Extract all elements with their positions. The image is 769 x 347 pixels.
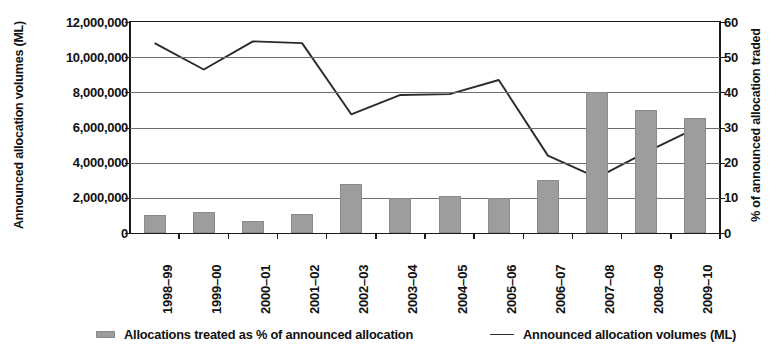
- y-axis-right-tick-label: 10: [724, 191, 764, 204]
- x-axis-tick-label-1998-99: 1998–99: [160, 265, 175, 314]
- y-axis-right-tick-label: 50: [724, 51, 764, 64]
- x-axis-tick-label-1999-00: 1999–00: [209, 265, 224, 314]
- plot-area: [130, 22, 720, 233]
- bar-1999-00: [193, 212, 215, 233]
- y-axis-left-tick-label: 8,000,000: [22, 86, 128, 99]
- y-axis-right-tickmark: [720, 92, 725, 93]
- gridline: [130, 128, 720, 129]
- bar-2008-09: [635, 110, 657, 233]
- y-axis-left-tickmark: [125, 163, 130, 164]
- x-axis-tick-label-2005-06: 2005–06: [504, 265, 519, 314]
- x-axis-tickmark: [277, 234, 279, 239]
- y-axis-left-tickmark: [125, 128, 130, 129]
- gridline: [130, 57, 720, 58]
- bar-2004-05: [439, 196, 461, 233]
- x-axis-tickmark: [523, 234, 525, 239]
- y-axis-right-tickmark: [720, 57, 725, 58]
- x-axis-tick-label-2007-08: 2007–08: [602, 265, 617, 314]
- x-axis-tickmark: [375, 234, 377, 239]
- x-axis-tick-label-2002-03: 2002–03: [356, 265, 371, 314]
- legend-bar-swatch-icon: [96, 331, 115, 338]
- y-axis-left-tick-label: 2,000,000: [22, 191, 128, 204]
- legend-line-swatch-icon: [490, 334, 514, 335]
- y-axis-left-tickmark: [125, 92, 130, 93]
- legend-bar-label: Allocations treated as % of announced al…: [124, 327, 413, 342]
- x-axis-ticks: 1998–991999–002000–012001–022002–032003–…: [130, 234, 720, 320]
- y-axis-right-tickmark: [720, 163, 725, 164]
- y-axis-right-tick-label: 40: [724, 86, 764, 99]
- x-axis-tickmark: [228, 234, 230, 239]
- y-axis-left-tick-label: 6,000,000: [22, 121, 128, 134]
- bar-2001-02: [291, 214, 313, 233]
- y-axis-left-tick-label: 10,000,000: [22, 51, 128, 64]
- bar-2003-04: [389, 198, 411, 233]
- chart-legend: Allocations treated as % of announced al…: [0, 322, 769, 347]
- x-axis-tickmark: [572, 234, 574, 239]
- x-axis-tickmark: [719, 234, 721, 239]
- x-axis-tickmark: [424, 234, 426, 239]
- x-axis-tickmark: [326, 234, 328, 239]
- x-axis-tickmark: [621, 234, 623, 239]
- y-axis-right-tickmark: [720, 22, 725, 23]
- y-axis-right-ticks: 0102030405060: [724, 0, 764, 347]
- y-axis-left-tick-label: 4,000,000: [22, 156, 128, 169]
- y-axis-right-tick-label: 30: [724, 121, 764, 134]
- y-axis-right-tick-label: 0: [724, 227, 764, 240]
- y-axis-left-tickmark: [125, 22, 130, 23]
- y-axis-right-tick-label: 20: [724, 156, 764, 169]
- x-axis-tick-label-2008-09: 2008–09: [651, 265, 666, 314]
- line-series-announced-allocation-volumes: [155, 41, 696, 177]
- gridline: [130, 92, 720, 93]
- x-axis-tickmark: [178, 234, 180, 239]
- bar-1998-99: [144, 215, 166, 233]
- legend-item-line: Announced allocation volumes (ML): [490, 322, 736, 347]
- y-axis-right-tickmark: [720, 198, 725, 199]
- legend-item-bars: Allocations treated as % of announced al…: [96, 322, 413, 347]
- gridline: [130, 163, 720, 164]
- bar-2009-10: [684, 118, 706, 233]
- x-axis-tick-label-2000-01: 2000–01: [258, 265, 273, 314]
- y-axis-left-tick-label: 12,000,000: [22, 16, 128, 29]
- y-axis-left-tick-label: 0: [22, 227, 128, 240]
- bar-2000-01: [242, 221, 264, 233]
- bar-2002-03: [340, 184, 362, 233]
- x-axis-tick-label-2009-10: 2009–10: [700, 265, 715, 314]
- x-axis-tickmark: [670, 234, 672, 239]
- y-axis-right-tickmark: [720, 128, 725, 129]
- x-axis-tick-label-2004-05: 2004–05: [455, 265, 470, 314]
- y-axis-right-tick-label: 60: [724, 16, 764, 29]
- x-axis-tick-label-2001-02: 2001–02: [307, 265, 322, 314]
- bar-2005-06: [488, 198, 510, 233]
- x-axis-tick-label-2006-07: 2006–07: [553, 265, 568, 314]
- y-axis-left-tickmark: [125, 57, 130, 58]
- x-axis-tickmark: [473, 234, 475, 239]
- bar-2006-07: [537, 180, 559, 233]
- x-axis-tick-label-2003-04: 2003–04: [405, 265, 420, 314]
- bar-2007-08: [586, 92, 608, 233]
- legend-line-label: Announced allocation volumes (ML): [523, 327, 736, 342]
- y-axis-left-ticks: 02,000,0004,000,0006,000,0008,000,00010,…: [22, 0, 128, 347]
- chart-figure: Announced allocation volumes (ML) % of a…: [0, 0, 769, 347]
- y-axis-left-tickmark: [125, 198, 130, 199]
- gridline: [130, 198, 720, 199]
